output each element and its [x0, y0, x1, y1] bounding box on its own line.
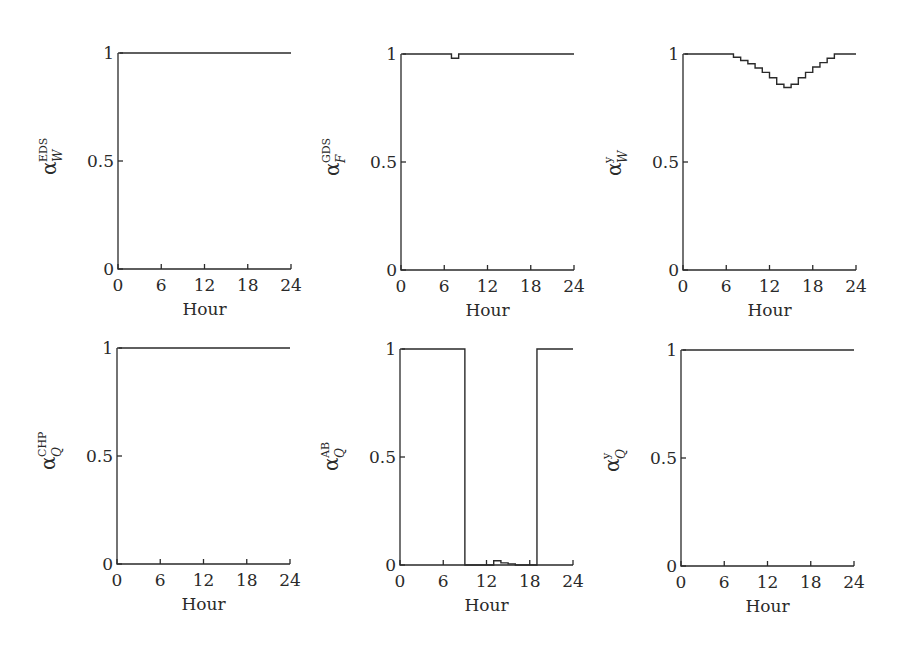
y-label-superscript: GDS [320, 138, 333, 163]
axes-frame [118, 53, 291, 269]
figure-canvas: 00.5106121824HourαEDSW00.5106121824Hourα… [0, 0, 904, 648]
y-label-superscript: y [602, 156, 615, 164]
y-tick-label: 0.5 [86, 446, 113, 466]
x-tick-label: 18 [520, 276, 542, 296]
y-tick-label: 1 [386, 44, 397, 64]
y-label-base: α [602, 162, 626, 176]
y-label-subscript: Q [614, 449, 628, 459]
y-label-superscript: y [600, 452, 613, 460]
x-tick-label: 12 [757, 572, 779, 592]
y-axis-label: αEDSW [37, 138, 65, 175]
x-tick-label: 18 [236, 570, 258, 590]
y-tick-label: 1 [102, 338, 113, 358]
subplot-chp-q: 00.5106121824HourαCHPQ [36, 338, 301, 614]
axes-frame [117, 348, 290, 564]
x-tick-label: 18 [800, 572, 822, 592]
data-series [402, 349, 574, 565]
x-tick-label: 24 [562, 571, 584, 591]
x-tick-label: 24 [280, 275, 302, 295]
y-label-base: α [320, 162, 344, 176]
y-tick-label: 0.5 [369, 447, 396, 467]
x-tick-label: 12 [477, 276, 499, 296]
x-tick-label: 18 [802, 276, 824, 296]
y-tick-label: 0.5 [87, 151, 114, 171]
x-axis-label: Hour [464, 595, 509, 615]
subplot-gds-f: 00.5106121824HourαGDSF [320, 44, 585, 320]
axes-frame [400, 349, 573, 565]
x-axis-label: Hour [181, 594, 226, 614]
data-series [685, 54, 857, 87]
x-tick-label: 12 [759, 276, 781, 296]
subplot-y-q: 00.5106121824HourαyQ [600, 340, 865, 616]
x-tick-label: 0 [676, 572, 687, 592]
x-tick-label: 6 [438, 571, 449, 591]
x-tick-label: 0 [113, 275, 124, 295]
y-axis-label: αABQ [319, 442, 347, 471]
x-tick-label: 24 [843, 572, 865, 592]
y-label-subscript: Q [333, 448, 347, 458]
y-tick-label: 0.5 [652, 152, 679, 172]
x-tick-label: 12 [476, 571, 498, 591]
y-label-subscript: W [51, 148, 65, 162]
x-tick-label: 12 [194, 275, 216, 295]
axes-frame [683, 54, 856, 270]
y-label-base: α [36, 456, 60, 470]
y-label-base: α [37, 161, 61, 175]
subplot-ab-q: 00.5106121824HourαABQ [319, 339, 584, 615]
x-tick-label: 0 [395, 571, 406, 591]
y-axis-label: αCHPQ [36, 431, 64, 470]
axes-frame [681, 350, 854, 566]
x-tick-label: 6 [156, 275, 167, 295]
y-axis-label: αGDSF [320, 138, 348, 176]
x-tick-label: 6 [719, 572, 730, 592]
x-tick-label: 12 [193, 570, 215, 590]
y-tick-label: 0.5 [650, 448, 677, 468]
y-label-subscript: W [616, 149, 630, 163]
x-axis-label: Hour [745, 596, 790, 616]
y-tick-label: 1 [668, 44, 679, 64]
subplot-eds-w: 00.5106121824HourαEDSW [37, 43, 302, 319]
x-tick-label: 24 [279, 570, 301, 590]
subplot-y-w: 00.5106121824HourαyW [602, 44, 867, 320]
x-tick-label: 6 [721, 276, 732, 296]
y-label-superscript: AB [319, 442, 332, 459]
y-label-superscript: EDS [37, 138, 50, 162]
y-label-subscript: F [334, 154, 348, 164]
y-label-superscript: CHP [36, 431, 49, 457]
x-tick-label: 24 [845, 276, 867, 296]
y-label-base: α [319, 457, 343, 471]
x-tick-label: 0 [396, 276, 407, 296]
x-tick-label: 0 [112, 570, 123, 590]
y-axis-label: αyW [602, 149, 630, 176]
data-series [403, 54, 575, 58]
x-tick-label: 6 [439, 276, 450, 296]
x-tick-label: 24 [563, 276, 585, 296]
y-axis-label: αyQ [600, 449, 628, 472]
x-axis-label: Hour [747, 300, 792, 320]
x-axis-label: Hour [182, 299, 227, 319]
y-label-subscript: Q [50, 447, 64, 457]
x-tick-label: 18 [519, 571, 541, 591]
y-tick-label: 0.5 [370, 152, 397, 172]
x-tick-label: 0 [678, 276, 689, 296]
y-tick-label: 1 [385, 339, 396, 359]
axes-frame [401, 54, 574, 270]
x-axis-label: Hour [465, 300, 510, 320]
y-tick-label: 1 [103, 43, 114, 63]
x-tick-label: 18 [237, 275, 259, 295]
y-tick-label: 1 [666, 340, 677, 360]
y-label-base: α [600, 458, 624, 472]
x-tick-label: 6 [155, 570, 166, 590]
